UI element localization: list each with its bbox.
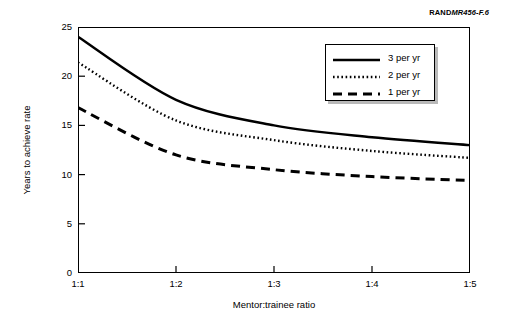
x-tick-label: 1:1 [58, 279, 98, 289]
x-tick-label: 1:5 [450, 279, 490, 289]
x-tick-label: 1:3 [254, 279, 294, 289]
rand-logo-text: RAND [429, 8, 451, 17]
y-axis-title: Years to achieve rate [20, 27, 34, 273]
source-credit: RANDMR456-F.6 [429, 9, 489, 17]
y-tick-label: 5 [44, 219, 72, 229]
legend-swatch-dashed [333, 86, 380, 98]
x-tick-label: 1:4 [352, 279, 392, 289]
x-axis-title: Mentor:trainee ratio [78, 299, 470, 311]
y-tick-label: 15 [44, 120, 72, 130]
legend-label: 3 per yr [388, 52, 420, 64]
y-tick-label: 25 [44, 22, 72, 32]
x-tick-label: 1:2 [156, 279, 196, 289]
legend-swatch-solid [333, 52, 380, 64]
legend-label: 2 per yr [388, 69, 420, 81]
figure-number: MR456-F.6 [451, 8, 489, 17]
y-tick-label: 10 [44, 170, 72, 180]
legend-item-3-per-yr: 3 per yr [326, 49, 434, 66]
legend-swatch-dotted [333, 69, 380, 81]
figure: RANDMR456-F.6 Years to achieve rate Ment… [0, 0, 505, 323]
y-tick-label: 0 [44, 268, 72, 278]
y-axis-tick-labels: 0510152025 [40, 0, 72, 323]
y-tick-label: 20 [44, 71, 72, 81]
legend-item-2-per-yr: 2 per yr [326, 66, 434, 83]
series-line-1-per-yr [78, 108, 470, 181]
chart-legend: 3 per yr2 per yr1 per yr [325, 44, 435, 101]
legend-item-1-per-yr: 1 per yr [326, 83, 434, 100]
legend-label: 1 per yr [388, 86, 420, 98]
